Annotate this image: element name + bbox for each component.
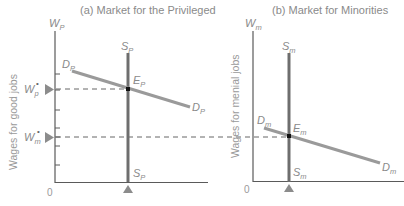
sm-top-label: Sm [282, 40, 296, 55]
em-label: Em [293, 122, 307, 137]
dp-right-label: DP [192, 101, 205, 116]
panel-minorities: (b) Market for Minorities Wm Wages for m… [229, 4, 404, 195]
y-ticks-a [55, 74, 60, 165]
sp-top-label: SP [121, 40, 133, 55]
wm-star: • [37, 127, 40, 136]
panel-b-title: (b) Market for Minorities [272, 4, 389, 16]
demand-curve-dm [264, 128, 380, 163]
wm-arrow-icon [45, 132, 54, 143]
wp-arrow-icon [45, 84, 54, 95]
y-axis-symbol-b: Wm [245, 17, 262, 32]
y-axis-label-a: Wages for good jobs [7, 74, 19, 170]
wp-star: • [36, 79, 39, 88]
dm-left-label: Dm [257, 114, 271, 129]
sm-quantity-arrow-icon [284, 184, 294, 192]
demand-curve-dp [72, 71, 190, 107]
equilibrium-point-em [287, 134, 291, 138]
sp-quantity-arrow-icon [123, 185, 133, 193]
panel-privileged: (a) Market for the Privileged WP Wages f… [7, 4, 289, 198]
dm-right-label: Dm [382, 161, 396, 176]
dp-left-label: DP [62, 58, 75, 73]
sp-bottom-label: SP [133, 167, 145, 182]
labor-market-diagram: (a) Market for the Privileged WP Wages f… [0, 0, 404, 206]
sm-bottom-label: Sm [293, 166, 307, 181]
y-axis-symbol-a: WP [49, 17, 64, 32]
ep-label: EP [133, 74, 145, 89]
panel-a-title: (a) Market for the Privileged [80, 4, 216, 16]
origin-a: 0 [47, 187, 53, 198]
origin-b: 0 [244, 184, 250, 195]
equilibrium-point-ep [126, 87, 130, 91]
y-axis-label-b: Wages for menial jobs [229, 55, 241, 159]
